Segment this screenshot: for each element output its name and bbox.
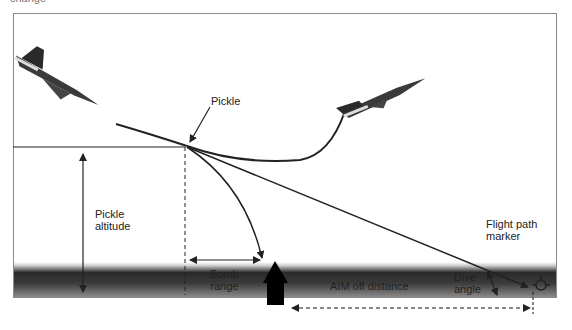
- climbing-jet-icon: [336, 73, 430, 125]
- bomb-range-label: Bomb range: [210, 268, 239, 292]
- dive-angle-label: Dive angle: [454, 271, 481, 295]
- dive-bombing-diagram: [0, 0, 572, 330]
- diving-jet-icon: [8, 40, 110, 117]
- pickle-altitude-label: Pickle altitude: [95, 208, 130, 232]
- flight-path-marker-icon: [532, 276, 550, 290]
- target-house-icon: [263, 261, 288, 305]
- flight-path-marker-label: Flight path marker: [486, 218, 537, 242]
- aim-off-distance-label: AIM off distance: [330, 280, 409, 292]
- pickle-label: Pickle: [211, 95, 240, 107]
